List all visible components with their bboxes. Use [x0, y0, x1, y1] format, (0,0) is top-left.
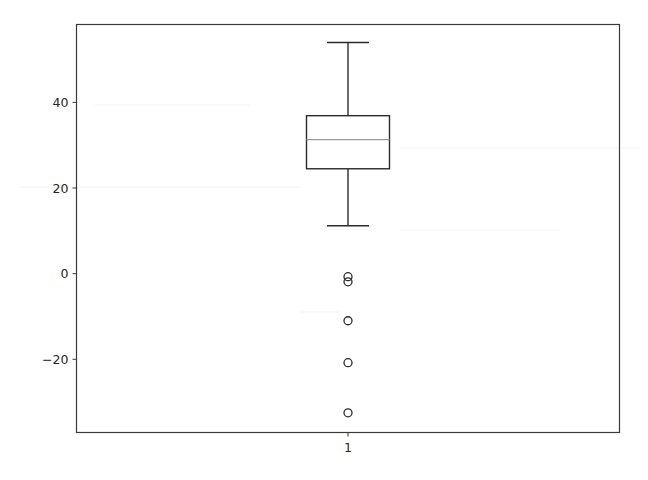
flier-point: [344, 278, 352, 286]
y-tick-label: −20: [42, 352, 68, 367]
box-series: [307, 42, 390, 416]
iqr-box: [307, 116, 390, 169]
y-tick-label: 20: [53, 181, 69, 196]
boxplot-chart: −2002040 1: [0, 0, 648, 480]
x-axis: 1: [344, 433, 352, 455]
plot-area: [307, 42, 390, 416]
y-tick-label: 40: [53, 95, 69, 110]
x-tick-label: 1: [344, 440, 352, 455]
flier-point: [344, 317, 352, 325]
y-axis: −2002040: [42, 95, 76, 367]
flier-point: [344, 409, 352, 417]
background-bleed: [20, 105, 640, 312]
y-tick-label: 0: [61, 266, 69, 281]
flier-point: [344, 359, 352, 367]
